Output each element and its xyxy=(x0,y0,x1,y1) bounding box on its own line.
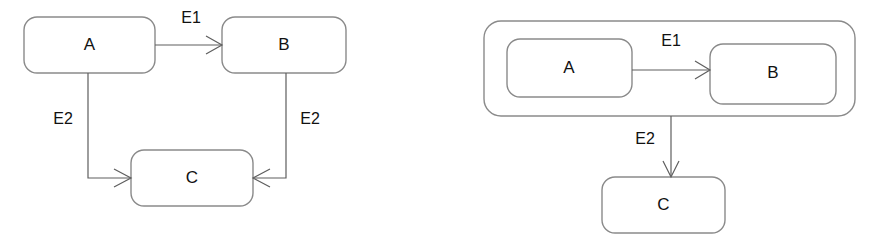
edge-b-to-c[interactable]: E2 xyxy=(253,73,320,187)
edge-a-to-c[interactable]: E2 xyxy=(53,73,131,187)
nested-edge-group-to-c[interactable]: E2 xyxy=(635,116,679,177)
nested-edge-group-to-c-label: E2 xyxy=(635,130,655,147)
nested-node-c[interactable]: C xyxy=(602,177,725,233)
diagram-svg: A B C E1 E2 xyxy=(0,0,877,242)
edge-a-to-c-line xyxy=(88,73,130,178)
nested-node-b-label: B xyxy=(767,63,778,82)
node-c[interactable]: C xyxy=(131,150,253,206)
nested-node-b[interactable]: B xyxy=(710,44,836,104)
nested-node-c-label: C xyxy=(657,195,669,214)
diagram-canvas: A B C E1 E2 xyxy=(0,0,877,242)
flat-state-diagram: A B C E1 E2 xyxy=(24,9,346,206)
nested-state-diagram: A B C E1 E2 xyxy=(484,21,855,233)
nested-node-a[interactable]: A xyxy=(507,39,632,97)
edge-b-to-c-label: E2 xyxy=(300,110,320,127)
edge-b-to-c-line xyxy=(254,73,286,178)
nested-edge-a-to-b-label: E1 xyxy=(661,32,681,49)
nested-node-a-label: A xyxy=(563,58,575,77)
node-a[interactable]: A xyxy=(24,17,155,73)
edge-a-to-c-label: E2 xyxy=(53,110,73,127)
edge-a-to-b-label: E1 xyxy=(181,9,201,26)
node-a-label: A xyxy=(84,35,96,54)
node-b[interactable]: B xyxy=(222,17,346,73)
node-c-label: C xyxy=(186,168,198,187)
node-b-label: B xyxy=(278,35,289,54)
edge-a-to-b[interactable]: E1 xyxy=(155,9,222,54)
